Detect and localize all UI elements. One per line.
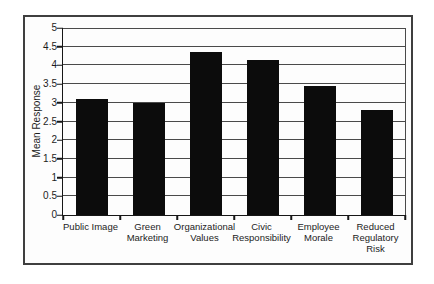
gridline: [63, 46, 405, 47]
gridline: [63, 121, 405, 122]
x-tick-mark: [119, 215, 121, 220]
x-tick-mark: [176, 215, 178, 220]
y-tick-label: 2: [51, 134, 57, 145]
gridline: [63, 28, 405, 29]
x-tick-mark: [233, 215, 235, 220]
bar-public-image: [76, 99, 108, 215]
y-tick-label: 4: [51, 59, 57, 70]
y-tick-label: 4.5: [43, 41, 57, 52]
gridline: [63, 83, 405, 84]
y-axis-title: Mean Response: [31, 85, 42, 158]
bar-employee-morale: [304, 86, 336, 215]
y-tick-label: 2.5: [43, 115, 57, 126]
gridline: [63, 195, 405, 196]
y-tick-label: 1: [51, 172, 57, 183]
x-tick-mark: [347, 215, 349, 220]
x-tick-mark: [290, 215, 292, 220]
y-tick-label: 3.5: [43, 78, 57, 89]
bar-organizational-values: [190, 52, 222, 215]
gridline: [63, 158, 405, 159]
gridline: [63, 139, 405, 140]
page: { "chart_data": { "type": "bar", "title"…: [0, 0, 434, 284]
figure-frame: 00.511.522.533.544.55 Public ImageGreen …: [23, 15, 413, 265]
y-tick-label: 0.5: [43, 190, 57, 201]
y-tick-label: 5: [51, 22, 57, 33]
y-tick-label: 3: [51, 97, 57, 108]
x-category-label: Reduced Regulatory Risk: [343, 221, 409, 255]
bar-reduced-regulatory-risk: [361, 110, 393, 215]
bar-civic-responsibility: [247, 60, 279, 215]
gridline: [63, 102, 405, 103]
x-axis-labels: Public ImageGreen MarketingOrganizationa…: [62, 221, 404, 261]
plot-area: [62, 28, 406, 216]
y-tick-label: 1.5: [43, 153, 57, 164]
x-tick-mark: [404, 215, 406, 220]
gridline: [63, 64, 405, 65]
x-tick-mark: [62, 215, 64, 220]
bar-green-marketing: [133, 103, 165, 215]
y-tick-label: 0: [51, 209, 57, 220]
gridline: [63, 177, 405, 178]
